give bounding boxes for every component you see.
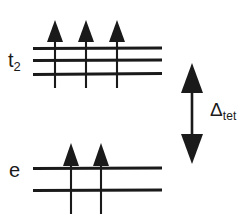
orbital-level-line — [33, 60, 162, 61]
electron-arrow-up — [47, 20, 63, 88]
e-electron-arrows — [63, 143, 109, 214]
crystal-field-splitting-diagram: t2 e Δtet — [0, 0, 249, 219]
electron-arrow-up — [78, 20, 94, 88]
orbital-level-line — [33, 48, 162, 49]
orbital-level-line — [33, 190, 162, 191]
t2-level-label: t2 — [8, 50, 21, 73]
splitting-double-arrow — [181, 63, 203, 164]
electron-arrow-up — [93, 143, 109, 214]
e-label-symbol: e — [9, 159, 20, 181]
arrow-head-up — [181, 63, 203, 93]
t2-label-subscript: 2 — [14, 59, 21, 74]
electron-arrow-up — [63, 143, 79, 214]
delta-label-subscript: tet — [223, 109, 237, 123]
orbital-level-line — [33, 168, 162, 169]
t2-electron-arrows — [47, 20, 125, 88]
e-orbital-levels — [33, 168, 162, 191]
delta-label-symbol: Δ — [210, 99, 223, 120]
orbital-level-line — [33, 74, 162, 75]
electron-arrow-up — [109, 20, 125, 88]
e-level-label: e — [9, 160, 20, 180]
arrow-head-down — [181, 134, 203, 164]
t2-orbital-levels — [33, 48, 162, 75]
splitting-energy-label: Δtet — [210, 100, 236, 122]
